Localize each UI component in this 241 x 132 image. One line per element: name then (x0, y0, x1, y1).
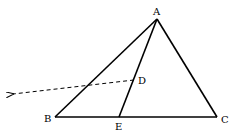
dashed-ray-from-d (13, 80, 134, 94)
label-c: C (221, 114, 229, 125)
triangle-diagram: A B C D E (0, 0, 241, 132)
segment-ac (157, 19, 217, 117)
label-a: A (152, 6, 161, 17)
segment-ae (119, 19, 157, 117)
label-e: E (115, 121, 122, 132)
label-b: B (44, 113, 51, 124)
label-d: D (138, 75, 146, 86)
segment-ab (55, 19, 157, 117)
